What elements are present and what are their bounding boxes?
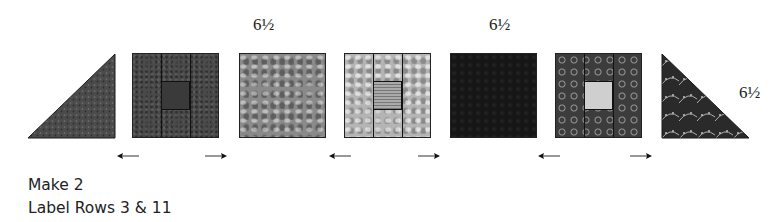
arrow-right-icon <box>418 152 440 160</box>
arrow-left-icon <box>117 152 139 160</box>
triangle-right <box>661 53 750 139</box>
block-framed-light <box>344 53 431 138</box>
seam-line <box>190 54 191 137</box>
arrow-left-icon <box>329 152 351 160</box>
square-medium-print <box>239 53 326 138</box>
square-black-print <box>450 53 537 138</box>
center-square-striped <box>373 81 402 110</box>
make-count-text: Make 2 <box>28 176 84 194</box>
center-square <box>161 81 190 110</box>
seam-line <box>402 54 403 137</box>
dimension-label-top-2: 6½ <box>489 15 510 35</box>
block-framed-floral <box>555 53 642 138</box>
arrow-right-icon <box>205 152 227 160</box>
arrow-left-icon <box>538 152 560 160</box>
label-rows-text: Label Rows 3 & 11 <box>28 199 172 217</box>
seam-line <box>613 54 614 137</box>
arrow-right-icon <box>630 152 652 160</box>
block-framed-dark <box>132 53 219 138</box>
dimension-label-top-1: 6½ <box>253 15 274 35</box>
triangle-left <box>27 53 116 139</box>
center-square-light <box>584 81 613 110</box>
